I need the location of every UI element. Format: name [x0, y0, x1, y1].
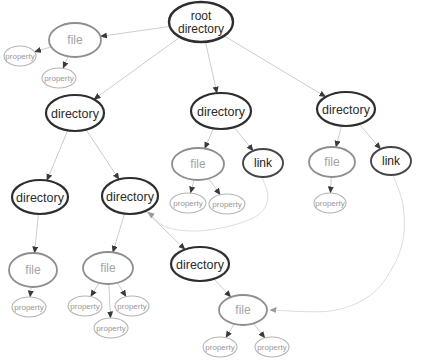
property-label: property — [315, 199, 344, 208]
graph-canvas: rootdirectoryfilepropertypropertydirecto… — [0, 0, 424, 364]
node-file-4: file — [9, 253, 57, 287]
edge-file-2-to-property-2b — [209, 179, 221, 195]
edge-file-5-to-property-5c — [109, 284, 111, 318]
edge-file-1-to-property-1b — [63, 56, 68, 68]
edge-file-1-to-property-1a — [35, 47, 52, 52]
node-directory-6: directory — [171, 247, 229, 281]
node-file-5: file — [83, 252, 133, 284]
edge-root-to-directory-2 — [205, 42, 217, 93]
edge-directory-2-to-file-2 — [205, 128, 214, 148]
link-label: link — [254, 156, 273, 170]
edge-file-6-to-property-6b — [254, 323, 265, 337]
edges-layer — [30, 26, 404, 337]
edge-directory-4-to-file-4 — [35, 214, 39, 253]
edge-file-2-to-property-2a — [191, 180, 194, 193]
node-property-6b: property — [255, 337, 289, 357]
node-link-2: link — [371, 147, 411, 175]
node-property-1a: property — [4, 46, 36, 66]
node-property-4a: property — [12, 297, 46, 317]
node-property-5c: property — [94, 318, 128, 338]
directory-label: directory — [176, 258, 225, 272]
filesystem-graph-diagram: rootdirectoryfilepropertypropertydirecto… — [0, 0, 424, 364]
node-root: rootdirectory — [169, 2, 233, 42]
property-label: property — [14, 303, 43, 312]
node-property-1b: property — [42, 68, 76, 88]
directory-label: directory — [51, 107, 100, 121]
edge-directory-3-to-link-2 — [359, 124, 381, 149]
nodes-layer: rootdirectoryfilepropertypropertydirecto… — [4, 2, 411, 357]
edge-directory-1-to-directory-4 — [47, 130, 68, 180]
node-directory-4: directory — [12, 180, 68, 214]
file-label: file — [235, 303, 251, 317]
edge-file-5-to-property-5b — [117, 283, 126, 297]
node-property-2a: property — [170, 193, 206, 213]
edge-directory-1-to-directory-5 — [86, 130, 119, 180]
node-property-6a: property — [203, 337, 237, 357]
directory-label: directory — [197, 105, 246, 119]
directory-label: directory — [106, 190, 155, 204]
node-directory-3: directory — [317, 92, 375, 126]
edge-directory-2-to-link-1 — [234, 127, 253, 151]
node-property-5b: property — [115, 296, 149, 316]
node-property-5a: property — [68, 296, 102, 316]
file-label: file — [100, 261, 116, 275]
edge-root-to-directory-3 — [224, 36, 326, 97]
edge-link-1-to-directory-5 — [148, 177, 268, 231]
node-directory-1: directory — [46, 95, 104, 131]
node-file-6: file — [219, 295, 267, 325]
property-label: property — [212, 200, 241, 209]
file-label: file — [25, 263, 41, 277]
property-label: property — [205, 343, 234, 352]
property-label: property — [44, 74, 73, 83]
property-label: property — [5, 52, 34, 61]
edge-file-3-to-property-3a — [330, 177, 331, 193]
file-label: file — [324, 155, 340, 169]
node-file-3: file — [309, 147, 355, 177]
edge-file-6-to-property-6a — [226, 324, 234, 338]
file-label: file — [190, 157, 206, 171]
node-property-2b: property — [209, 194, 245, 214]
property-label: property — [96, 324, 125, 333]
edge-directory-3-to-file-3 — [336, 126, 342, 147]
edge-root-to-directory-1 — [94, 37, 180, 99]
link-label: link — [382, 154, 401, 168]
directory-label: directory — [16, 191, 65, 205]
node-property-3a: property — [314, 193, 346, 213]
edge-root-to-file-1 — [100, 26, 169, 36]
node-directory-2: directory — [191, 93, 251, 129]
node-directory-5: directory — [102, 178, 158, 214]
edge-file-4-to-property-4a — [30, 287, 31, 297]
node-file-1: file — [49, 23, 101, 57]
property-label: property — [257, 343, 286, 352]
property-label: property — [70, 302, 99, 311]
node-link-1: link — [243, 149, 283, 177]
file-label: file — [67, 33, 83, 47]
node-file-2: file — [172, 148, 224, 180]
property-label: property — [117, 302, 146, 311]
edge-directory-6-to-file-6 — [214, 279, 231, 297]
directory-label: directory — [322, 103, 371, 117]
property-label: property — [173, 199, 202, 208]
edge-file-5-to-property-5a — [91, 283, 99, 297]
edge-directory-5-to-file-5 — [113, 214, 125, 253]
